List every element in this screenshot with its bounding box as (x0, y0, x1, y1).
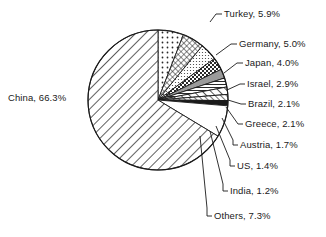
slice-label-others: Others, 7.3% (214, 211, 271, 221)
leader-line-greece (226, 107, 243, 124)
leader-line-austria (222, 118, 238, 145)
leader-line-israel (227, 84, 245, 90)
slice-label-brazil: Brazil, 2.1% (248, 99, 300, 109)
slice-label-turkey: Turkey, 5.9% (224, 9, 280, 19)
slice-label-japan: Japan, 4.0% (245, 58, 299, 68)
slice-label-india: India, 1.2% (230, 186, 279, 196)
slice-label-greece: Greece, 2.1% (245, 119, 304, 129)
slice-label-us: US, 1.4% (237, 161, 278, 171)
slice-label-germany: Germany, 5.0% (239, 39, 306, 49)
leader-line-japan (224, 63, 243, 73)
slice-label-israel: Israel, 2.9% (247, 79, 298, 89)
slice-label-austria: Austria, 1.7% (240, 140, 298, 150)
leader-line-brazil (228, 100, 246, 104)
slice-label-china: China, 66.3% (8, 93, 66, 103)
leader-line-us (216, 126, 235, 166)
pie-chart-figure: China, 66.3% Turkey, 5.9% Germany, 5.0% … (0, 0, 326, 237)
leader-line-turkey (210, 14, 222, 22)
leader-line-germany (216, 44, 237, 55)
pie-slices-group (88, 30, 228, 170)
